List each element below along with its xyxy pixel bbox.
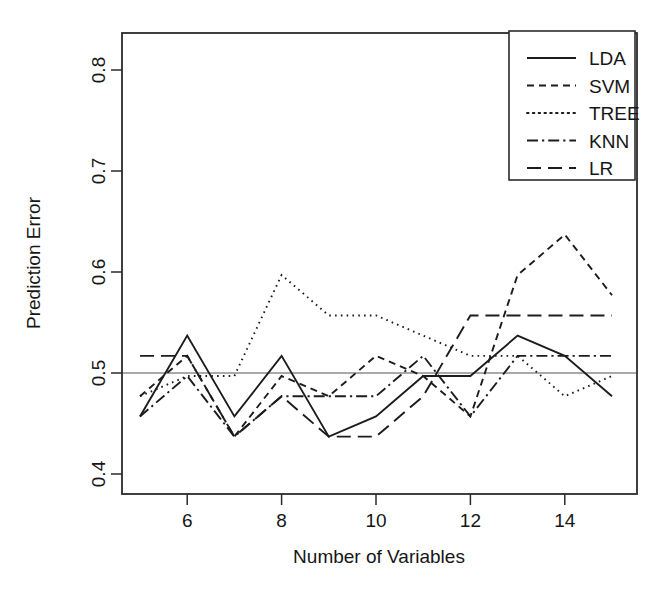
- legend-label-knn: KNN: [589, 131, 629, 152]
- prediction-error-line-chart: 0.40.50.60.70.8 68101214 LDASVMTREEKNNLR…: [0, 0, 663, 609]
- x-tick-label: 8: [276, 510, 287, 531]
- x-axis-title: Number of Variables: [293, 546, 465, 567]
- y-tick-label: 0.8: [88, 57, 109, 83]
- y-tick-label: 0.7: [88, 158, 109, 184]
- y-tick-label: 0.6: [88, 259, 109, 285]
- y-tick-label: 0.4: [88, 460, 109, 487]
- chart-legend: LDASVMTREEKNNLR: [509, 31, 640, 180]
- x-tick-label: 6: [182, 510, 193, 531]
- legend-label-lr: LR: [589, 158, 613, 179]
- chart-container: 0.40.50.60.70.8 68101214 LDASVMTREEKNNLR…: [0, 0, 663, 609]
- y-tick-label: 0.5: [88, 360, 109, 386]
- y-axis-title: Prediction Error: [23, 196, 44, 329]
- x-tick-label: 14: [554, 510, 576, 531]
- legend-label-lda: LDA: [589, 48, 626, 69]
- legend-label-svm: SVM: [589, 76, 630, 97]
- x-tick-label: 10: [365, 510, 386, 531]
- x-tick-label: 12: [460, 510, 481, 531]
- legend-label-tree: TREE: [589, 103, 640, 124]
